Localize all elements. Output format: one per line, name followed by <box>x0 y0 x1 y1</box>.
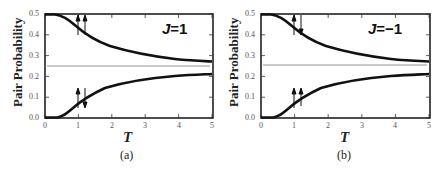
y-tick-label: 0.5 <box>29 9 39 18</box>
plot-b <box>216 0 443 175</box>
x-axis-label: T <box>123 129 132 146</box>
antiparallel-arrows-icon <box>76 88 87 108</box>
y-tick-label: 0.4 <box>245 30 255 39</box>
coupling-label: J=−1 <box>368 20 402 37</box>
j-value: =−1 <box>376 20 402 37</box>
parallel-arrows-icon <box>292 88 303 108</box>
coupling-label: J=1 <box>162 20 187 37</box>
x-tick-label: 1 <box>292 121 296 130</box>
panel-caption: (b) <box>337 148 351 163</box>
plot-a <box>0 0 221 175</box>
y-tick-label: 0.1 <box>29 92 39 101</box>
panel-a: 0.5 0.4 0.3 0.2 0.1 0.0 0 1 2 3 4 5 Pair… <box>0 0 221 175</box>
x-tick-label: 5 <box>427 121 431 130</box>
x-tick-label: 5 <box>210 121 214 130</box>
y-tick-label: 0.2 <box>29 72 39 81</box>
panel-b: 0.5 0.4 0.3 0.2 0.1 0.0 0 1 2 3 4 5 Pair… <box>216 0 437 175</box>
x-tick-label: 4 <box>393 121 397 130</box>
x-axis-label: T <box>340 129 349 146</box>
x-tick-label: 3 <box>143 121 147 130</box>
y-axis-label: Pair Probability <box>226 21 242 107</box>
x-tick-label: 0 <box>43 121 47 130</box>
y-tick-label: 0.5 <box>245 9 255 18</box>
lower-curve <box>45 74 212 118</box>
x-tick-label: 2 <box>326 121 330 130</box>
j-value: =1 <box>170 20 187 37</box>
x-tick-label: 3 <box>360 121 364 130</box>
y-tick-label: 0.4 <box>29 30 39 39</box>
panel-caption: (a) <box>120 148 133 163</box>
x-minor-ticks <box>261 14 429 118</box>
y-tick-label: 0.3 <box>245 51 255 60</box>
y-tick-label: 0.3 <box>29 51 39 60</box>
lower-curve <box>261 74 429 118</box>
y-tick-label: 0.2 <box>245 72 255 81</box>
y-tick-label: 0.1 <box>245 92 255 101</box>
x-tick-label: 2 <box>110 121 114 130</box>
x-tick-label: 0 <box>259 121 263 130</box>
y-ticks <box>261 14 430 118</box>
y-tick-label: 0.0 <box>29 113 39 122</box>
y-tick-label: 0.0 <box>245 113 255 122</box>
x-tick-label: 1 <box>76 121 80 130</box>
plot-frame <box>261 14 430 118</box>
upper-curve <box>261 15 429 62</box>
x-tick-label: 4 <box>177 121 181 130</box>
y-axis-label: Pair Probability <box>10 21 26 107</box>
